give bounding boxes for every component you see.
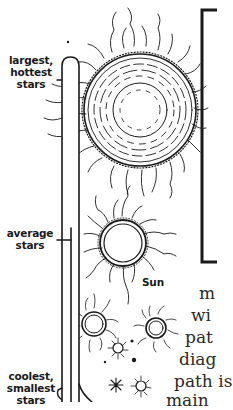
body-text-line: pat bbox=[185, 327, 213, 347]
label-line: smallest bbox=[4, 382, 58, 394]
small-star-icon bbox=[134, 306, 178, 352]
body-text-line: main bbox=[166, 390, 209, 410]
label-line: hottest bbox=[6, 66, 56, 78]
label-coolest-smallest-stars: coolest, smallest stars bbox=[4, 370, 58, 406]
label-sun: Sun bbox=[142, 276, 164, 288]
label-line: stars bbox=[4, 394, 58, 406]
label-line: largest, bbox=[6, 54, 56, 66]
body-text-line: wi bbox=[191, 305, 211, 325]
text-box-frame bbox=[202, 10, 217, 262]
star-sparkle-icon bbox=[109, 378, 123, 392]
label-line: coolest, bbox=[4, 370, 58, 382]
label-line: average bbox=[4, 227, 56, 239]
label-line: stars bbox=[4, 239, 56, 251]
label-line: stars bbox=[6, 78, 56, 90]
body-text-line: path is bbox=[174, 371, 232, 391]
tiny-star-icon bbox=[131, 376, 151, 397]
label-average-stars: average stars bbox=[4, 227, 56, 251]
tiny-star-icon bbox=[108, 338, 128, 359]
body-text-line: m bbox=[199, 283, 215, 303]
label-largest-hottest-stars: largest, hottest stars bbox=[6, 54, 56, 90]
body-text-line: diag bbox=[179, 349, 216, 369]
thermometer-icon bbox=[57, 57, 92, 402]
